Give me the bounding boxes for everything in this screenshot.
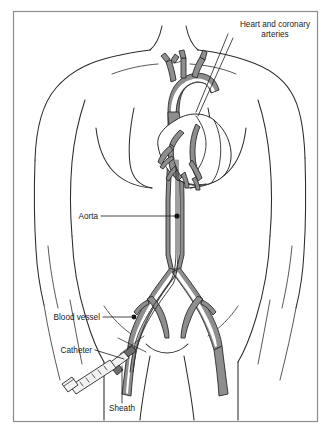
label-blood-vessel: Blood vessel — [54, 313, 101, 322]
arterial-tree-group — [122, 50, 228, 396]
right-arm-inner-crease — [282, 246, 292, 308]
right-arm-outer-lower — [296, 158, 306, 308]
left-pectoral-contour — [129, 108, 152, 188]
syringe-barrel — [70, 360, 116, 394]
left-arm-outer-lower — [34, 160, 44, 305]
left-common-carotid — [181, 58, 186, 78]
right-elbow-hint — [258, 300, 270, 364]
blood-vessel-marker-dot — [132, 315, 137, 320]
neck-left-contour — [150, 26, 162, 50]
neck-right-contour — [186, 26, 198, 50]
aorta-marker-dot — [174, 213, 179, 218]
left-pectoral-lower — [96, 128, 152, 188]
left-flank-contour — [72, 236, 104, 362]
label-aorta: Aorta — [78, 212, 98, 221]
label-heart-coronary-line2: arteries — [261, 30, 288, 39]
left-arm-inner-crease — [48, 246, 58, 308]
left-clavicle — [112, 64, 158, 74]
carotid-bifurcation — [179, 50, 186, 58]
left-thigh-inner — [140, 356, 150, 420]
left-iliac-crest — [104, 306, 134, 336]
diagram-canvas: Heart and coronary arteries Aorta Blood … — [0, 0, 332, 434]
left-shoulder-arm-contour — [35, 50, 150, 160]
right-internal-iliac-branch — [181, 296, 203, 338]
right-armpit-contour — [258, 100, 272, 236]
label-catheter: Catheter — [61, 346, 93, 355]
right-thigh-inner — [184, 356, 194, 420]
groin-contour — [146, 344, 188, 353]
right-forearm-hint — [280, 308, 296, 380]
brachiocephalic-bifurcation-right — [171, 54, 179, 63]
label-sheath: Sheath — [109, 404, 135, 413]
right-femoral-artery — [214, 346, 228, 396]
cardiac-catheterization-figure: Heart and coronary arteries Aorta Blood … — [0, 0, 332, 434]
label-heart-coronary-line1: Heart and coronary — [240, 20, 311, 29]
right-flank-contour — [238, 236, 270, 362]
